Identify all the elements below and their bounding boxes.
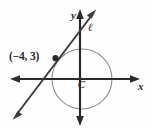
line-l-label: ℓ — [88, 22, 93, 33]
point-coordinate-label: (−4, 3) — [9, 51, 39, 63]
x-axis — [10, 75, 140, 83]
circle-center-label: C — [78, 80, 85, 91]
geometry-figure: (−4, 3) y x ℓ C — [0, 0, 153, 129]
diagram-canvas — [0, 0, 153, 129]
x-axis-label: x — [138, 81, 144, 92]
point-marker — [52, 55, 58, 61]
line-l — [13, 9, 97, 119]
y-axis-label: y — [71, 10, 76, 21]
